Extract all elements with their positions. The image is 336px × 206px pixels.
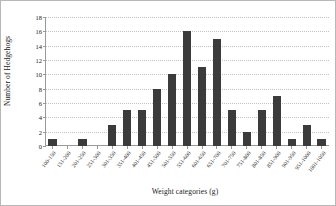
bar (303, 125, 311, 147)
x-axis-label-slot: 501-550 (165, 150, 180, 186)
bar (48, 139, 56, 146)
bar-series (45, 17, 329, 146)
y-axis-tick-label: 14 (36, 42, 43, 49)
x-axis-tick-mark (112, 146, 113, 149)
bar (78, 139, 86, 146)
x-axis-tick-mark (216, 146, 217, 149)
bar (258, 110, 266, 146)
bar-slot (90, 17, 105, 146)
bar-slot (254, 17, 269, 146)
x-axis-tick-mark (97, 146, 98, 149)
bar-slot (195, 17, 210, 146)
bar (228, 110, 236, 146)
x-axis-label-slot: 851-900 (269, 150, 284, 186)
x-axis-label-slot: 801-850 (254, 150, 269, 186)
bar-slot (299, 17, 314, 146)
x-axis-label-slot: 651-700 (209, 150, 224, 186)
x-axis-label-slot: 751-800 (239, 150, 254, 186)
y-axis-tick-label: 2 (39, 128, 42, 135)
x-axis-tick-mark (261, 146, 262, 149)
y-axis-tick-label: 18 (36, 14, 43, 21)
bar (108, 125, 116, 147)
bar-slot (45, 17, 60, 146)
x-axis-label-slot: 601-650 (195, 150, 210, 186)
x-axis-tick-mark (172, 146, 173, 149)
x-axis-tick-mark (246, 146, 247, 149)
x-axis-label-slot: 701-750 (224, 150, 239, 186)
x-axis-tick-mark (82, 146, 83, 149)
x-axis-tick-mark (187, 146, 188, 149)
y-axis-title: Number of Hedgehogs (3, 1, 17, 141)
x-axis-tick-mark (157, 146, 158, 149)
x-axis-tick-mark (142, 146, 143, 149)
x-axis-tick-mark (231, 146, 232, 149)
bar-slot (135, 17, 150, 146)
bar-slot (239, 17, 254, 146)
y-axis-tick-label: 0 (39, 143, 42, 150)
x-axis-title: Weight categories (g) (41, 187, 329, 196)
bar-chart-figure: Number of Hedgehogs 024681012141618 100-… (0, 0, 336, 206)
bar (168, 74, 176, 146)
bar (123, 110, 131, 146)
bar (198, 67, 206, 146)
bar-slot (105, 17, 120, 146)
bar (288, 139, 296, 146)
bar (273, 96, 281, 146)
bar-slot (269, 17, 284, 146)
bar (213, 39, 221, 147)
x-axis-tick-label: 100-150 (41, 150, 57, 169)
bar-slot (180, 17, 195, 146)
bar-slot (150, 17, 165, 146)
x-axis-tick-mark (127, 146, 128, 149)
x-axis-label-slot: 151-200 (60, 150, 75, 186)
x-axis-tick-labels: 100-150151-200201-250251-300301-350351-4… (45, 150, 329, 186)
x-axis-label-slot: 551-600 (180, 150, 195, 186)
bar-slot (60, 17, 75, 146)
x-axis-label-slot: 351-400 (120, 150, 135, 186)
x-axis-label-slot: 251-300 (90, 150, 105, 186)
bar-slot (314, 17, 329, 146)
y-axis-tick-label: 12 (36, 57, 43, 64)
bar-slot (284, 17, 299, 146)
y-axis-tick-label: 6 (39, 100, 42, 107)
bar (138, 110, 146, 146)
bar-slot (75, 17, 90, 146)
bar-slot (209, 17, 224, 146)
bar (317, 139, 325, 146)
x-axis-tick-mark (202, 146, 203, 149)
x-axis-label-slot: 1001-1050 (314, 150, 329, 186)
bar-slot (224, 17, 239, 146)
bar (183, 31, 191, 146)
bar-slot (165, 17, 180, 146)
bar-slot (120, 17, 135, 146)
x-axis-label-slot: 201-250 (75, 150, 90, 186)
y-axis-tick-label: 10 (36, 71, 43, 78)
x-axis-tick-mark (67, 146, 68, 149)
x-axis-label-slot: 301-350 (105, 150, 120, 186)
y-axis-tick-label: 16 (36, 28, 43, 35)
x-axis-label-slot: 100-150 (45, 150, 60, 186)
y-axis-tick-label: 4 (39, 114, 42, 121)
y-axis-tick-label: 8 (39, 85, 42, 92)
bar (153, 89, 161, 146)
plot-area: 024681012141618 (45, 17, 329, 146)
x-axis-label-slot: 401-450 (135, 150, 150, 186)
x-axis-tick-mark (52, 146, 53, 149)
x-axis-label-slot: 451-500 (150, 150, 165, 186)
bar (243, 132, 251, 146)
